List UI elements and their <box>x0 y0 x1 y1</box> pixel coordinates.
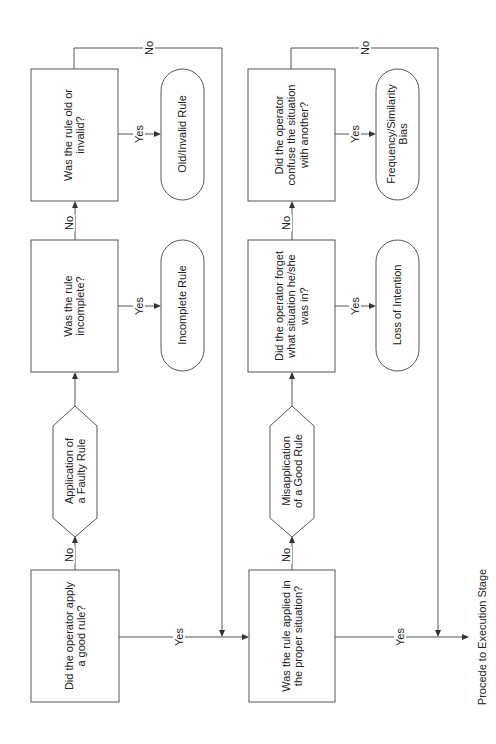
process-misapplication-text-line: of a Good Rule <box>292 434 304 508</box>
decision-confuse-text-line: with another? <box>298 102 310 169</box>
decision-incomplete-text-line: incomplete? <box>74 276 86 335</box>
outcome-loss-of-intention-text-line: Loss of Intention <box>391 265 403 346</box>
decision-proper-situation-text: Was the rule applied inthe proper situat… <box>280 580 305 692</box>
arrowhead <box>72 201 78 208</box>
arrowhead <box>242 634 249 640</box>
outcome-incomplete-rule-text: Incomplete Rule <box>176 265 188 345</box>
decision-proper-situation-text-line: the proper situation? <box>292 586 304 686</box>
label-forget-yes-text: Yes <box>349 297 361 315</box>
label-confuse-no-text: No <box>359 41 371 55</box>
label-good-rule-no-text: No <box>63 548 75 562</box>
flowchart: Was the rule old orinvalid?Was the rulei… <box>0 0 496 744</box>
label-good-rule-no: No <box>63 547 75 564</box>
decision-confuse-text-line: Did the operator <box>273 95 285 174</box>
arrowhead <box>219 630 225 637</box>
decision-old-invalid-text-line: Was the rule old or <box>62 89 74 181</box>
label-forget-yes: Yes <box>349 294 361 318</box>
outcome-loss-of-intention-text: Loss of Intention <box>391 265 403 346</box>
label-proper-yes: Yes <box>394 625 406 649</box>
terminal-execution-stage: Procede to Execution Stage <box>476 569 488 705</box>
outcome-frequency-bias-text-line: Frequency/Similarity <box>385 84 397 184</box>
label-old-invalid-yes: Yes <box>133 122 145 146</box>
label-incomplete-no: No <box>63 215 75 232</box>
outcome-old-invalid-rule-text: Old/Invalid Rule <box>176 95 188 173</box>
label-proper-no: No <box>280 547 292 564</box>
label-incomplete-no-text: No <box>63 216 75 230</box>
decision-proper-situation-text-line: Was the rule applied in <box>280 580 292 692</box>
label-confuse-yes: Yes <box>349 122 361 146</box>
arrowhead <box>369 131 376 137</box>
decision-forget-text-line: Did the operator forget <box>273 251 285 361</box>
decision-good-rule-text-line: a good rule? <box>75 605 87 666</box>
arrowhead <box>72 372 78 379</box>
terminal-text: Procede to Execution Stage <box>476 569 488 705</box>
outcome-incomplete-rule-text-line: Incomplete Rule <box>176 265 188 345</box>
label-incomplete-yes: Yes <box>133 294 145 318</box>
outcome-old-invalid-rule-text-line: Old/Invalid Rule <box>176 95 188 173</box>
decision-old-invalid-text-line: invalid? <box>74 116 86 153</box>
process-faulty-rule-text-line: Application of <box>63 437 75 504</box>
decision-forget-text-line: was in? <box>298 287 310 325</box>
decision-incomplete-text-line: Was the rule <box>62 275 74 336</box>
label-confuse-no: No <box>359 40 371 57</box>
arrowhead <box>369 303 376 309</box>
process-faulty-rule-text: Application ofa Faulty Rule <box>63 437 88 504</box>
process-misapplication-text: Misapplicationof a Good Rule <box>280 434 305 508</box>
decision-good-rule-text-line: Did the operator apply <box>63 581 75 690</box>
decision-confuse-text-line: confuse the situation <box>285 85 297 186</box>
label-confuse-yes-text: Yes <box>349 125 361 143</box>
decision-forget-text-line: what situation he/she <box>285 254 297 358</box>
label-good-rule-yes-text: Yes <box>173 628 185 646</box>
label-good-rule-yes: Yes <box>173 625 185 649</box>
arrowhead <box>154 303 161 309</box>
arrowhead <box>289 372 295 379</box>
label-incomplete-yes-text: Yes <box>133 297 145 315</box>
process-misapplication-text-line: Misapplication <box>280 436 292 506</box>
arrowheads <box>72 131 469 640</box>
label-old-invalid-no-text: No <box>143 41 155 55</box>
arrowhead <box>435 630 441 637</box>
arrowhead <box>154 131 161 137</box>
outcome-frequency-bias-text-line: Bias <box>397 123 409 145</box>
label-forget-no-text: No <box>280 216 292 230</box>
label-proper-no-text: No <box>280 548 292 562</box>
arrowhead <box>289 201 295 208</box>
arrowhead <box>462 634 469 640</box>
label-old-invalid-no: No <box>143 40 155 57</box>
label-forget-no: No <box>280 215 292 232</box>
process-faulty-rule-text-line: a Faulty Rule <box>75 439 87 504</box>
decision-incomplete-text: Was the ruleincomplete? <box>62 275 87 336</box>
label-proper-yes-text: Yes <box>394 628 406 646</box>
label-old-invalid-yes-text: Yes <box>133 125 145 143</box>
